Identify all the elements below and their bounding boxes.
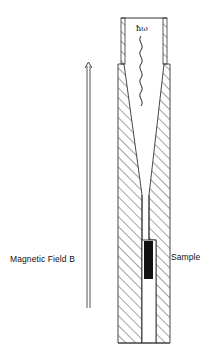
sample: [144, 241, 153, 279]
magnetic-field-arrow: [85, 62, 92, 308]
sample-label: Sample: [171, 252, 200, 262]
light-cone-left-wall: [118, 64, 142, 343]
magnetic-field-label: Magnetic Field B: [10, 254, 75, 264]
diagram-canvas: [0, 0, 211, 355]
photon-wave-icon: [140, 36, 142, 106]
photon-energy-label: ħω: [136, 24, 148, 33]
